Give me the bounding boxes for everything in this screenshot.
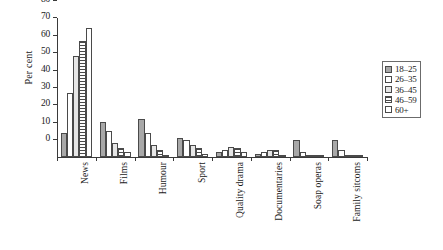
- y-tick-label: 0: [45, 133, 50, 144]
- bar: [357, 155, 363, 157]
- legend-label: 26–35: [395, 74, 417, 84]
- legend-label: 46–59: [395, 95, 417, 105]
- y-tick-label: 30: [41, 81, 50, 92]
- x-tick-label: Family sitcoms: [352, 162, 362, 222]
- plot-area: [57, 18, 367, 157]
- x-tick-label: Quality drama: [235, 162, 245, 218]
- bar-group: [96, 18, 135, 157]
- x-tick-label: Soap operas: [313, 162, 323, 209]
- bar: [241, 152, 247, 157]
- x-tick-mark: [135, 157, 136, 161]
- legend-item: 60+: [385, 105, 417, 115]
- x-tick-mark: [57, 157, 58, 161]
- y-tick-label: 40: [41, 64, 50, 75]
- x-tick-mark: [212, 157, 213, 161]
- legend-item: 36–45: [385, 85, 417, 95]
- x-tick-mark: [328, 157, 329, 161]
- bar-group: [328, 18, 367, 157]
- legend-item: 26–35: [385, 75, 417, 85]
- x-tick-mark: [96, 157, 97, 161]
- bar-group: [290, 18, 329, 157]
- bar-group: [135, 18, 174, 157]
- x-tick-mark: [290, 157, 291, 161]
- y-tick-label: 70: [41, 11, 50, 22]
- x-tick-label: Sport: [197, 162, 207, 183]
- y-tick-label: 80: [41, 0, 50, 5]
- y-axis-ticks: 01020304050607080: [0, 0, 57, 140]
- legend-swatch: [385, 86, 392, 93]
- x-tick-label: Humour: [158, 162, 168, 194]
- bar-group: [251, 18, 290, 157]
- bar: [124, 152, 130, 157]
- bar: [86, 28, 92, 157]
- x-tick-mark: [173, 157, 174, 161]
- x-tick-mark: [251, 157, 252, 161]
- legend-item: 18–25: [385, 65, 417, 75]
- y-tick-label: 60: [41, 29, 50, 40]
- x-tick-label: Films: [119, 162, 129, 184]
- legend-label: 60+: [395, 105, 408, 115]
- y-tick-label: 50: [41, 46, 50, 57]
- bar: [202, 154, 208, 157]
- y-tick-label: 20: [41, 98, 50, 109]
- x-tick-mark: [367, 157, 368, 161]
- bar: [318, 155, 324, 157]
- y-tick-mark: [53, 0, 57, 1]
- legend-label: 18–25: [395, 64, 417, 74]
- legend-swatch: [385, 66, 392, 73]
- bar-group: [173, 18, 212, 157]
- bar: [279, 155, 285, 157]
- bar: [163, 155, 169, 157]
- legend-swatch: [385, 106, 392, 113]
- bar-group: [212, 18, 251, 157]
- chart-container: Per cent 01020304050607080 NewsFilmsHumo…: [0, 0, 443, 250]
- legend-label: 36–45: [395, 85, 417, 95]
- bar-group: [57, 18, 96, 157]
- x-tick-label: Documentaries: [274, 162, 284, 221]
- y-tick-label: 10: [41, 116, 50, 127]
- legend-swatch: [385, 96, 392, 103]
- legend-swatch: [385, 76, 392, 83]
- x-tick-label: News: [80, 162, 90, 184]
- legend-item: 46–59: [385, 95, 417, 105]
- legend: 18–2526–3536–4546–5960+: [382, 61, 421, 118]
